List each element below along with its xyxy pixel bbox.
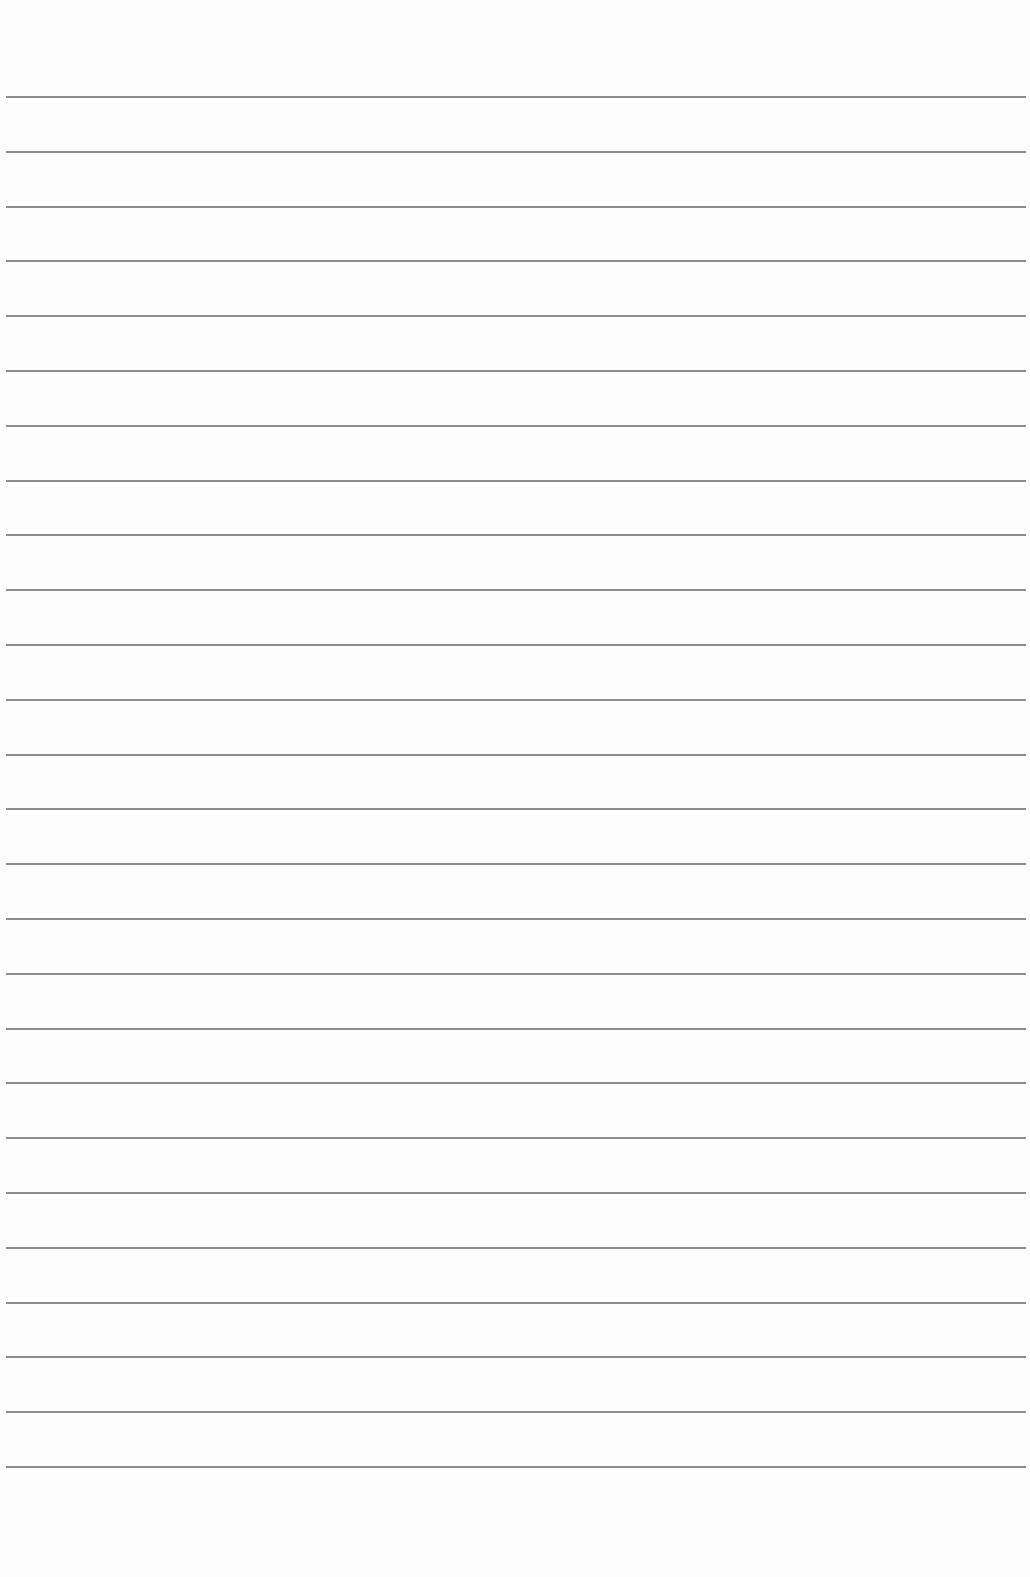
ruled-line [6, 1411, 1026, 1413]
ruled-line [6, 370, 1026, 372]
ruled-line [6, 644, 1026, 646]
ruled-line [6, 699, 1026, 701]
ruled-line [6, 151, 1026, 153]
ruled-line [6, 534, 1026, 536]
ruled-line [6, 589, 1026, 591]
ruled-line [6, 480, 1026, 482]
ruled-line [6, 1028, 1026, 1030]
ruled-line [6, 1082, 1026, 1084]
ruled-line [6, 260, 1026, 262]
ruled-line [6, 206, 1026, 208]
ruled-line [6, 808, 1026, 810]
ruled-line [6, 315, 1026, 317]
ruled-paper-page [0, 0, 1030, 1577]
ruled-line [6, 1356, 1026, 1358]
ruled-line [6, 918, 1026, 920]
ruled-line [6, 754, 1026, 756]
ruled-line [6, 863, 1026, 865]
ruled-line [6, 1192, 1026, 1194]
ruled-line [6, 96, 1026, 98]
ruled-line [6, 1247, 1026, 1249]
ruled-line [6, 1466, 1026, 1468]
ruled-line [6, 1137, 1026, 1139]
ruled-line [6, 973, 1026, 975]
ruled-line [6, 425, 1026, 427]
ruled-line [6, 1302, 1026, 1304]
